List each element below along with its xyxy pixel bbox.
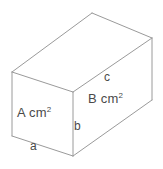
face-area-label-a-text: A cm — [17, 105, 47, 120]
face-area-label-a: A cm2 — [17, 106, 51, 119]
face-area-label-b: B cm2 — [88, 92, 123, 105]
edge-label-c: c — [104, 71, 110, 83]
face-area-label-b-exponent: 2 — [118, 91, 123, 100]
cuboid-figure: A cm2 B cm2 a b c — [0, 0, 163, 169]
edge-label-b: b — [74, 120, 81, 132]
face-area-label-a-exponent: 2 — [47, 105, 52, 114]
face-area-label-b-text: B cm — [88, 91, 118, 106]
edge-label-a: a — [30, 140, 37, 152]
cuboid-drawing — [0, 0, 163, 169]
